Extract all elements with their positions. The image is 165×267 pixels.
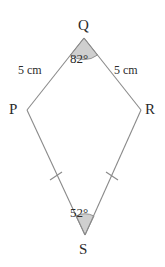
vertex-label-R: R	[145, 102, 155, 117]
kite-diagram	[0, 0, 165, 267]
angle-measure-label-S: 52°	[70, 206, 88, 219]
side-length-label-QR: 5 cm	[114, 64, 138, 76]
vertex-label-S: S	[79, 242, 87, 257]
vertex-label-P: P	[9, 102, 17, 117]
tick-mark-RS	[106, 172, 118, 180]
side-length-label-PQ: 5 cm	[18, 64, 42, 76]
angle-measure-label-Q: 82°	[70, 52, 88, 65]
vertex-label-Q: Q	[78, 18, 89, 33]
side-RS	[85, 110, 141, 235]
